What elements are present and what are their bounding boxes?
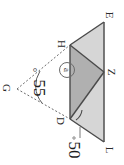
vertex-label-H: H	[56, 40, 68, 48]
vertex-label-Z: Z	[106, 69, 118, 76]
angle-value-55: 55	[30, 80, 49, 97]
vertex-label-E: E	[104, 12, 116, 19]
angle-value-50: 50	[65, 142, 84, 159]
vertex-label-G: G	[1, 84, 13, 92]
vertex-label-L: L	[104, 147, 116, 154]
geometry-figure: a E H Z D G L 55 ° 50	[0, 0, 124, 165]
vertex-label-D: D	[55, 117, 67, 125]
figure-canvas: a E H Z D G L 55 ° 50	[0, 0, 124, 165]
degree-symbol-55: °	[27, 68, 39, 72]
circled-region-label: a	[62, 68, 72, 72]
degree-dot-50	[73, 137, 75, 139]
